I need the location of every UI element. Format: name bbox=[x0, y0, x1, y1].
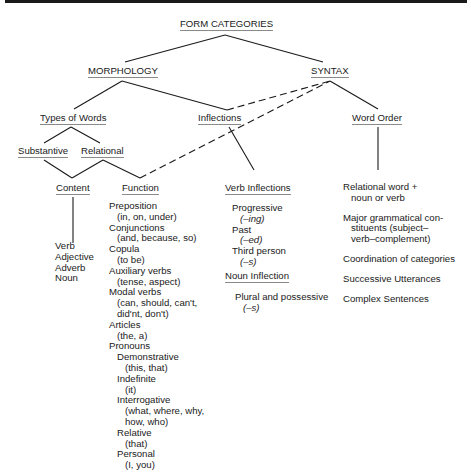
edge-types-relational bbox=[71, 127, 100, 143]
node-content: Content bbox=[56, 182, 90, 195]
node-verb-inflections: Verb Inflections bbox=[225, 182, 291, 195]
content-list: Verb Adjective Adverb Noun bbox=[55, 241, 94, 284]
word-order-list: Relational word + noun or verb Major gra… bbox=[343, 182, 455, 304]
wordorder-successive: Successive Utterances bbox=[343, 274, 455, 285]
edge-morph-types bbox=[74, 81, 122, 109]
noun-plural-suffix: (–s) bbox=[235, 303, 328, 314]
edge-types-substantive bbox=[44, 127, 71, 143]
pronoun-personal-examples: (I, you) bbox=[109, 460, 204, 471]
function-preposition-examples: (in, on, under) bbox=[109, 212, 204, 223]
wordorder-complex: Complex Sentences bbox=[343, 294, 455, 305]
edge-form-morphology bbox=[125, 35, 225, 62]
verb-third-person-suffix: (–s) bbox=[232, 257, 286, 268]
content-item: Noun bbox=[55, 273, 94, 284]
noun-inflection-list: Plural and possessive (–s) bbox=[235, 292, 328, 314]
edge-form-syntax bbox=[225, 35, 323, 62]
edge-relational-function bbox=[103, 160, 140, 178]
function-list: Preposition (in, on, under) Conjunctions… bbox=[109, 201, 204, 471]
wordorder-relational-2: noun or verb bbox=[343, 193, 455, 204]
node-relational: Relational bbox=[81, 145, 124, 158]
wordorder-coordination: Coordination of categories bbox=[343, 254, 455, 265]
wordorder-major-3: verb–complement) bbox=[343, 234, 455, 245]
node-noun-inflection: Noun Inflection bbox=[225, 270, 289, 283]
edge-morph-inflections bbox=[122, 81, 227, 110]
content-item: Adjective bbox=[55, 252, 94, 263]
node-substantive: Substantive bbox=[18, 145, 68, 158]
node-types-of-words: Types of Words bbox=[40, 112, 106, 125]
node-word-order: Word Order bbox=[352, 112, 402, 125]
edge-content-relational bbox=[72, 160, 103, 178]
node-function: Function bbox=[122, 182, 159, 195]
node-inflections: Inflections bbox=[198, 112, 241, 125]
function-auxiliary: Auxiliary verbs bbox=[109, 266, 204, 277]
pronoun-relative: Relative bbox=[109, 428, 204, 439]
node-form-categories: FORM CATEGORIES bbox=[180, 18, 273, 31]
verb-inflections-list: Progressive (–ing) Past (–ed) Third pers… bbox=[232, 203, 286, 268]
edge-substantive-content bbox=[44, 160, 72, 178]
pronoun-indefinite: Indefinite bbox=[109, 374, 204, 385]
edge-syntax-wordorder bbox=[330, 81, 378, 109]
dashed-function-syntax bbox=[140, 81, 330, 178]
pronoun-personal: Personal bbox=[109, 449, 204, 460]
edge-inflections-verb bbox=[229, 127, 254, 170]
function-articles: Articles bbox=[109, 320, 204, 331]
dashed-inflections-syntax bbox=[227, 81, 330, 110]
node-syntax: SYNTAX bbox=[311, 65, 349, 78]
verb-progressive-suffix: (–ing) bbox=[232, 214, 286, 225]
node-morphology: MORPHOLOGY bbox=[88, 65, 158, 78]
